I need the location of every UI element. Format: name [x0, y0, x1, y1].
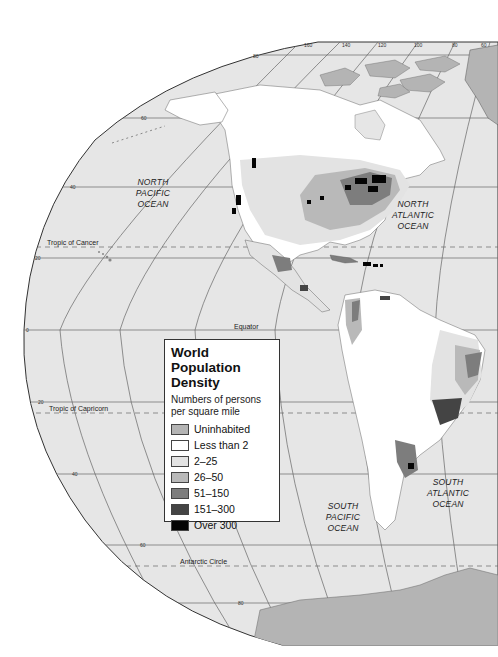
- svg-text:120: 120: [378, 42, 387, 48]
- svg-text:SOUTH: SOUTH: [328, 501, 359, 511]
- svg-text:160: 160: [304, 42, 313, 48]
- tropic-of-capricorn-label: Tropic of Capricorn: [49, 405, 108, 413]
- svg-text:OCEAN: OCEAN: [432, 499, 464, 509]
- svg-text:OCEAN: OCEAN: [397, 221, 429, 231]
- swatch-51-150: [171, 488, 189, 499]
- buenos-aires: [408, 463, 414, 469]
- svg-text:PACIFIC: PACIFIC: [326, 512, 361, 522]
- map-legend: World Population Density Numbers of pers…: [164, 339, 280, 522]
- north-pacific-ocean-label: NORTH PACIFIC OCEAN: [136, 177, 171, 209]
- south-pacific-ocean-label: SOUTH PACIFIC OCEAN: [326, 501, 361, 533]
- svg-text:NORTH: NORTH: [137, 177, 169, 187]
- svg-text:NORTH: NORTH: [397, 199, 429, 209]
- north-atlantic-ocean-label: NORTH ATLANTIC OCEAN: [391, 199, 435, 231]
- tropic-of-cancer-label: Tropic of Cancer: [47, 239, 99, 247]
- svg-text:40: 40: [70, 184, 76, 190]
- svg-text:OCEAN: OCEAN: [327, 523, 359, 533]
- swatch-151-300: [171, 504, 189, 515]
- svg-text:60: 60: [141, 115, 147, 121]
- svg-text:140: 140: [342, 42, 351, 48]
- svg-text:80: 80: [452, 42, 458, 48]
- legend-item-uninhabited: Uninhabited: [171, 421, 273, 437]
- svg-text:80: 80: [238, 600, 244, 606]
- equator-label: Equator: [234, 323, 259, 331]
- svg-text:0: 0: [26, 327, 29, 333]
- svg-text:SOUTH: SOUTH: [433, 477, 464, 487]
- svg-text:20: 20: [38, 399, 44, 405]
- svg-text:40: 40: [72, 471, 78, 477]
- svg-text:20: 20: [35, 255, 41, 261]
- svg-text:80: 80: [253, 53, 259, 59]
- swatch-2-25: [171, 456, 189, 467]
- legend-item-over-300: Over 300: [171, 517, 273, 533]
- legend-item-151-300: 151–300: [171, 501, 273, 517]
- legend-title: World Population Density: [171, 345, 273, 390]
- legend-item-51-150: 51–150: [171, 485, 273, 501]
- legend-item-26-50: 26–50: [171, 469, 273, 485]
- svg-text:OCEAN: OCEAN: [137, 199, 169, 209]
- legend-subtitle: Numbers of persons per square mile: [171, 394, 273, 418]
- swatch-26-50: [171, 472, 189, 483]
- legend-item-less-than-2: Less than 2: [171, 437, 273, 453]
- swatch-uninhabited: [171, 424, 189, 435]
- central-america-dense: [300, 285, 308, 291]
- svg-text:ATLANTIC: ATLANTIC: [391, 210, 435, 220]
- svg-text:ATLANTIC: ATLANTIC: [426, 488, 470, 498]
- svg-text:100: 100: [414, 42, 423, 48]
- svg-text:60: 60: [140, 542, 146, 548]
- svg-text:PACIFIC: PACIFIC: [136, 188, 171, 198]
- venezuela-dense: [380, 296, 390, 300]
- legend-item-2-25: 2–25: [171, 453, 273, 469]
- swatch-less-than-2: [171, 440, 189, 451]
- world-population-map: 80 60 40 20 0 20 40 60 80 160 140 120 10…: [0, 0, 498, 657]
- svg-text:60: 60: [481, 42, 487, 48]
- south-atlantic-ocean-label: SOUTH ATLANTIC OCEAN: [426, 477, 470, 509]
- antarctic-circle-label: Antarctic Circle: [180, 558, 227, 565]
- swatch-over-300: [171, 520, 189, 531]
